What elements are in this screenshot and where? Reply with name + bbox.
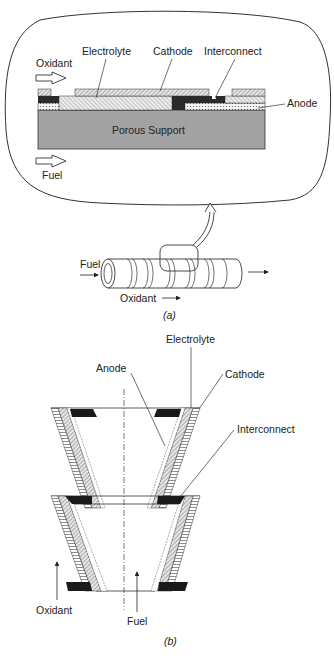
caption-b: (b): [164, 635, 177, 647]
cathode-layer-left: [38, 89, 51, 96]
electrolyte-label: Electrolyte: [166, 333, 215, 345]
interconnect-label: Interconnect: [237, 423, 295, 435]
electrolyte-layer: [59, 96, 172, 110]
interconnect-left: [38, 96, 59, 103]
oxidant-label-inset: Oxidant: [36, 57, 72, 69]
fuel-label: Fuel: [127, 615, 147, 627]
caption-a: (a): [163, 309, 176, 321]
electrolyte-layer-right: [225, 96, 265, 103]
tubular-cell: [101, 245, 242, 288]
fuel-hollow-arrow-icon: [36, 155, 66, 167]
highlight-region: [160, 245, 198, 271]
anode-label-inset: Anode: [287, 97, 318, 109]
fuel-cell-diagram: Oxidant Electrolyte Cathode Interconnect…: [0, 0, 334, 658]
interconnect-block: [154, 409, 181, 417]
electrolyte-label-inset: Electrolyte: [82, 45, 131, 57]
zoom-arrow-icon: [193, 210, 210, 245]
oxidant-hollow-arrow-icon: [36, 72, 66, 84]
porous-support-label: Porous Support: [112, 124, 185, 136]
figure-b: Electrolyte Anode Cathode Interconnect: [36, 333, 295, 647]
upper-cone: [51, 408, 200, 508]
interconnect-block: [158, 582, 188, 591]
interconnect-label-inset: Interconnect: [204, 45, 262, 57]
fuel-label-tube: Fuel: [80, 258, 100, 270]
cathode-layer: [75, 89, 209, 96]
cathode-label: Cathode: [225, 368, 265, 380]
cathode-label-inset: Cathode: [153, 45, 193, 57]
interconnect-block: [66, 582, 92, 591]
anode-layer-right: [185, 103, 265, 110]
oxidant-label-tube: Oxidant: [120, 292, 156, 304]
lower-cone: [51, 496, 200, 591]
oxidant-label: Oxidant: [36, 604, 72, 616]
cathode-layer-right: [232, 89, 265, 96]
figure-a: Oxidant Electrolyte Cathode Interconnect…: [5, 11, 330, 321]
cathode-leader: [160, 59, 172, 91]
fuel-label-inset: Fuel: [42, 169, 62, 181]
anode-label: Anode: [96, 362, 127, 374]
interconnect-block: [70, 409, 97, 417]
